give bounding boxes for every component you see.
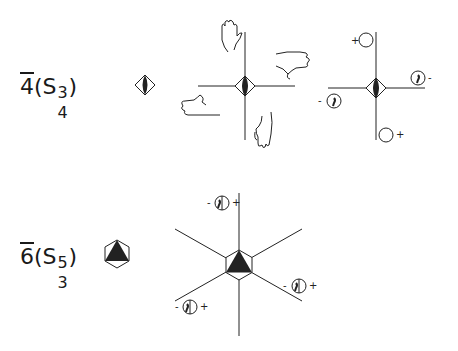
svg-text:-: - (175, 301, 179, 312)
svg-text:-: - (207, 197, 211, 208)
pole-bottom: + (379, 128, 404, 142)
pole-right: - (411, 71, 432, 85)
hexagon-triangle-icon (226, 250, 252, 280)
pole-left: - (318, 94, 341, 108)
diamond-lens-icon (366, 78, 386, 98)
svg-text:-: - (283, 280, 287, 291)
pole-top: - + (207, 196, 240, 210)
svg-text:+: + (232, 197, 240, 208)
hand-bottom-icon (255, 112, 272, 148)
svg-text:+: + (351, 35, 359, 46)
diamond-lens-icon (235, 76, 255, 96)
hand-right-icon (276, 52, 310, 79)
hexagon-triangle-icon (105, 240, 129, 268)
svg-text:-: - (428, 72, 432, 83)
stereogram-s4: + - - + (318, 32, 432, 142)
pole-top: + (351, 33, 373, 47)
pole-lower-left: - + (175, 300, 208, 314)
diamond-lens-icon (135, 75, 155, 95)
symmetry-diagrams: + - - + (0, 0, 458, 351)
stereogram-s6: - + - + - + (175, 193, 317, 336)
pole-lower-right: - + (283, 279, 317, 293)
svg-text:+: + (309, 280, 317, 291)
hand-left-icon (182, 95, 221, 115)
hand-top-icon (222, 20, 242, 52)
hands-diagram (182, 20, 310, 147)
svg-text:+: + (200, 301, 208, 312)
svg-text:-: - (318, 95, 322, 106)
svg-text:+: + (396, 129, 404, 140)
